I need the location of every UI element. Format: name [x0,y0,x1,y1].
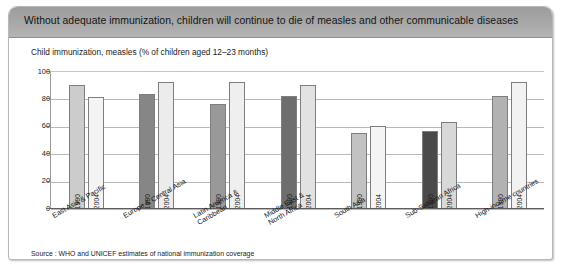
figure-panel: Without adequate immunization, children … [8,6,553,260]
bar: 1990 [281,96,297,208]
plot-area: 1990200419902004199020041990200419902004… [50,71,544,208]
y-axis: 020406080100 [22,65,50,215]
bar: 1990 [69,85,85,208]
chart-subtitle: Child immunization, measles (% of childr… [31,47,268,57]
gridline [51,182,544,183]
bar: 2004 [370,126,386,208]
bar: 1990 [492,96,508,208]
gridline [51,127,544,128]
source-note: Source : WHO and UNICEF estimates of nat… [31,250,254,257]
banner-title: Without adequate immunization, children … [24,15,518,26]
banner: Without adequate immunization, children … [9,7,553,38]
gridline [51,99,544,100]
gridline [51,154,544,155]
bar-year-label: 2004 [375,194,382,209]
bar: 1990 [139,94,155,208]
bar: 2004 [300,85,316,208]
